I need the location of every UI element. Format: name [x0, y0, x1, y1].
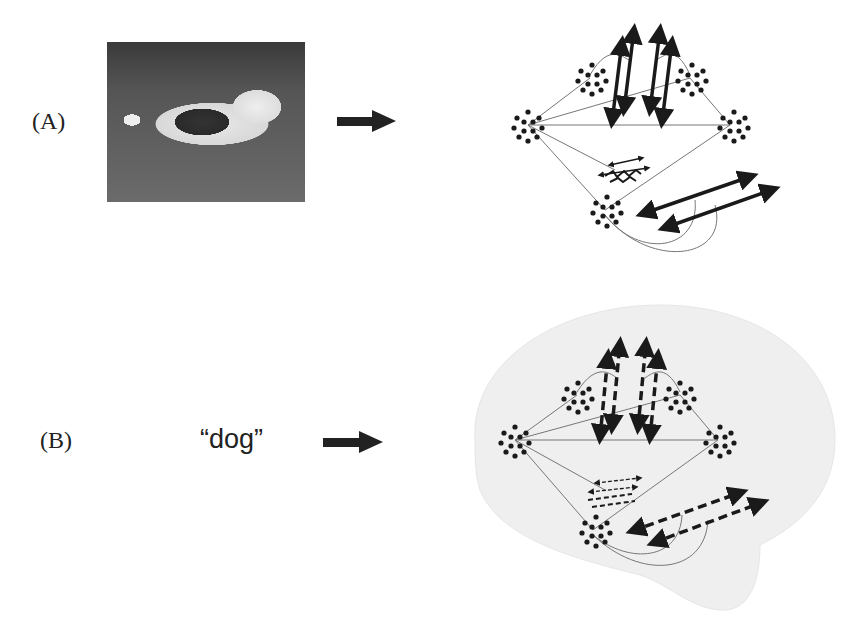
- network-diagrams: [0, 0, 853, 630]
- brain-outline: [475, 305, 835, 610]
- arrow-right-icon-b: [323, 431, 383, 453]
- arrow-right-icon-a: [337, 110, 396, 132]
